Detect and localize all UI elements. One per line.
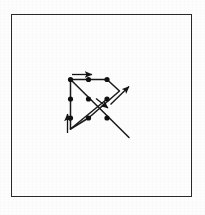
edge-group [71,80,130,138]
graph-node[interactable] [104,77,109,82]
graph-node[interactable] [68,96,73,101]
edge-diagonal-down-right [71,80,130,138]
graph-node[interactable] [86,96,91,101]
diagram-canvas [0,0,205,215]
graph-node[interactable] [68,115,73,120]
graph-node[interactable] [104,96,109,101]
graph-node[interactable] [68,77,73,82]
page-root [0,0,205,215]
graph-node[interactable] [86,77,91,82]
graph-node[interactable] [104,115,109,120]
graph-node[interactable] [86,115,91,120]
